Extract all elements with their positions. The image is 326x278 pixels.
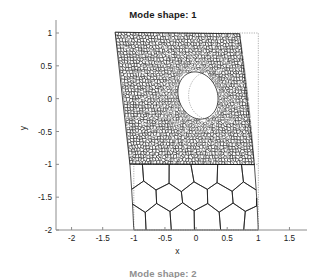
x-tick-5: 0.5: [221, 234, 232, 243]
y-axis-label: y: [18, 126, 28, 130]
perforated-plate-mesh: [115, 32, 254, 164]
y-tick-0: 1: [47, 29, 52, 38]
figure-panel: Mode shape: 1 -2-1.5-1-0.500.511.5 10.50…: [0, 0, 326, 278]
y-tick-5: -1.5: [38, 193, 52, 202]
x-axis-label: x: [175, 246, 179, 256]
next-subplot-title: Mode shape: 2: [0, 268, 326, 278]
x-tick-3: -0.5: [158, 234, 172, 243]
y-tick-6: -2: [45, 226, 52, 235]
honeycomb-foam-mesh: [130, 164, 258, 230]
y-tick-2: 0: [47, 94, 52, 103]
x-tick-1: -1.5: [96, 234, 110, 243]
y-tick-1: 0.5: [41, 61, 52, 70]
axis-lines: [56, 20, 307, 230]
x-tick-2: -1: [130, 234, 137, 243]
x-tick-6: 1: [256, 234, 261, 243]
x-tick-0: -2: [68, 234, 75, 243]
y-tick-4: -1: [45, 160, 52, 169]
x-tick-4: 0: [194, 234, 199, 243]
x-tick-7: 1.5: [284, 234, 295, 243]
y-tick-3: -0.5: [38, 127, 52, 136]
